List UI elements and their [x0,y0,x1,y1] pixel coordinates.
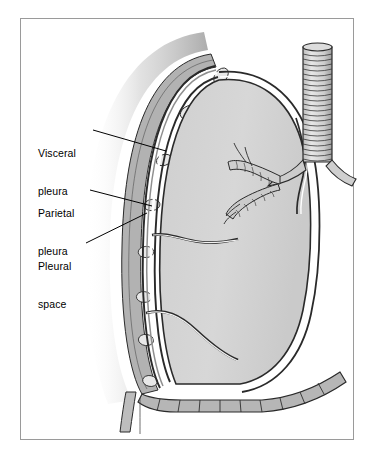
label-pleural-space: Pleural space [38,235,71,335]
illustration-stage: Visceral pleura Parietal pleura Pleural … [0,0,374,462]
label-visceral-pleura-line1: Visceral [38,147,76,160]
trachea [303,43,332,162]
label-parietal-pleura-line1: Parietal [38,207,74,220]
lung [160,80,311,384]
label-pleural-space-line1: Pleural [38,260,71,273]
label-pleural-space-line2: space [38,298,71,311]
